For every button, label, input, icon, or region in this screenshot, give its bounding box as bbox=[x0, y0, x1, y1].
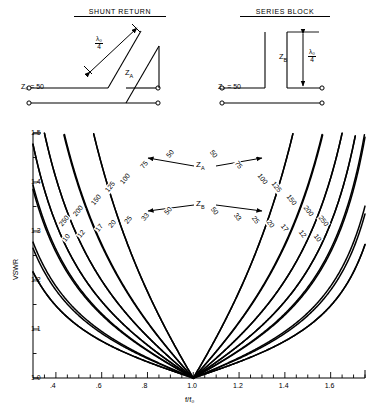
series-block-schematic bbox=[215, 22, 365, 112]
vswr-curve bbox=[33, 136, 355, 378]
series-stub-impedance-subscript: B bbox=[284, 57, 288, 63]
series-quarter-wavelength-dimension: λ₀ 4 bbox=[308, 49, 316, 64]
za-callout-subscript: A bbox=[201, 165, 205, 171]
za-callout-label: ZA bbox=[196, 160, 205, 171]
series-stub-impedance-label: ZB bbox=[279, 52, 287, 63]
x-axis-tick-label: 1.4 bbox=[279, 382, 289, 389]
x-axis-tick-label: .6 bbox=[96, 382, 102, 389]
shunt-characteristic-impedance-label: Z₀ = 50 bbox=[21, 83, 44, 90]
x-axis-title-text: f/f₀ bbox=[185, 395, 194, 404]
vswr-curve bbox=[33, 245, 365, 378]
shunt-lambda-denominator: 4 bbox=[95, 44, 103, 51]
zb-callout-subscript: B bbox=[201, 204, 205, 210]
x-axis-tick-label: 1.0 bbox=[187, 382, 197, 389]
shunt-quarter-wavelength-dimension: λ₀ 4 bbox=[95, 36, 103, 51]
x-axis-tick-label: 1.6 bbox=[325, 382, 335, 389]
x-axis-tick-label: 1.2 bbox=[233, 382, 243, 389]
callout-arrows bbox=[148, 158, 262, 211]
series-characteristic-impedance-label: Z₀ = 50 bbox=[218, 83, 241, 90]
x-axis-title: f/f₀ bbox=[185, 395, 194, 404]
shunt-stub-impedance-subscript: A bbox=[130, 73, 134, 79]
x-axis-tick-label: .4 bbox=[50, 382, 56, 389]
shunt-stub-impedance-label: ZA bbox=[125, 68, 133, 79]
vswr-curve bbox=[33, 136, 355, 378]
zb-callout-label: ZB bbox=[196, 199, 205, 210]
x-axis-tick-label: .8 bbox=[141, 382, 147, 389]
series-block-title: SERIES BLOCK bbox=[240, 8, 330, 17]
shunt-return-schematic bbox=[18, 22, 198, 112]
series-lambda-denominator: 4 bbox=[308, 57, 316, 64]
vswr-curve bbox=[44, 133, 342, 378]
shunt-return-title: SHUNT RETURN bbox=[74, 8, 166, 17]
vswr-curve bbox=[33, 245, 365, 378]
vswr-chart bbox=[0, 118, 377, 416]
y-axis-title: VSWR bbox=[12, 259, 19, 280]
vswr-curve bbox=[94, 134, 293, 378]
zb-arrow-right bbox=[216, 205, 262, 211]
vswr-curve bbox=[94, 134, 293, 378]
vswr-curve bbox=[44, 133, 342, 378]
